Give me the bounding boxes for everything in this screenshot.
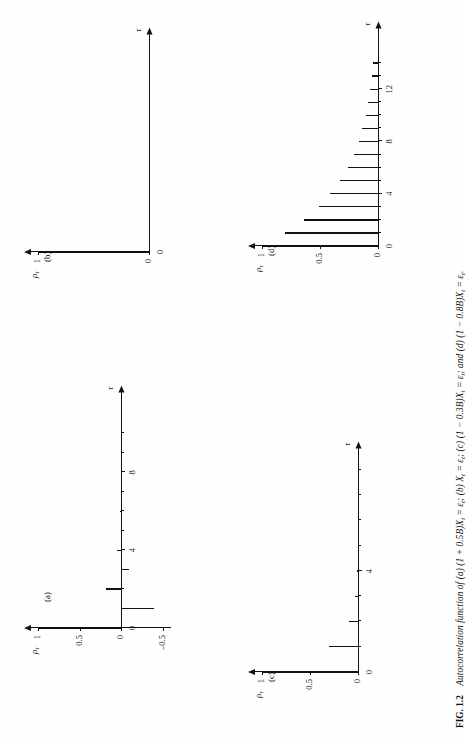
acf-spike xyxy=(355,596,358,597)
panel-label-a: (a) xyxy=(42,592,52,602)
x-tick-label: 4 xyxy=(364,566,374,576)
acf-spike xyxy=(348,167,378,168)
x-tick-label: 12 xyxy=(384,84,394,94)
x-tick xyxy=(121,510,124,511)
x-tick xyxy=(378,193,382,194)
x-tick xyxy=(378,167,381,168)
x-tick xyxy=(378,88,382,89)
panel-d: τρτ10.5004812 (d) xyxy=(252,24,402,286)
y-tick-label: 0.5 xyxy=(74,635,84,668)
x-tick-label: 8 xyxy=(127,467,137,477)
tau-axis-label: τ xyxy=(362,23,372,26)
acf-spike xyxy=(372,76,378,77)
acf-spike xyxy=(362,128,378,129)
acf-spike xyxy=(38,627,121,628)
y-tick-label: 0 xyxy=(372,253,382,286)
acf-spike xyxy=(329,646,358,647)
y-tick xyxy=(358,671,359,675)
tau-axis-arrowhead xyxy=(118,386,124,393)
x-tick xyxy=(358,595,361,596)
x-tick xyxy=(378,219,381,220)
acf-spike xyxy=(370,89,378,90)
x-tick xyxy=(378,206,381,207)
plot-area-a: τρτ10.50–0.5048 xyxy=(28,388,233,668)
acf-spike xyxy=(121,569,128,570)
acf-spike xyxy=(319,206,378,207)
x-tick-label: 0 xyxy=(384,241,394,251)
x-tick xyxy=(121,432,124,433)
x-tick xyxy=(121,452,124,453)
figure-caption: FIG. 1.2 Autocorrelation function of (a)… xyxy=(455,270,466,728)
x-tick xyxy=(121,471,125,472)
x-tick xyxy=(358,570,362,571)
x-tick-label: 0 xyxy=(364,667,374,677)
tau-axis-line xyxy=(121,390,122,628)
y-tick-label: 1 xyxy=(256,253,266,286)
x-tick xyxy=(378,180,381,181)
x-tick-label: 4 xyxy=(384,189,394,199)
x-tick xyxy=(358,646,361,647)
panel-label-c: (c) xyxy=(266,672,276,682)
acf-spike xyxy=(262,671,358,672)
rho-axis-arrowhead xyxy=(24,625,31,631)
rho-axis-arrowhead xyxy=(24,249,31,255)
x-tick xyxy=(358,621,361,622)
y-tick xyxy=(163,627,164,631)
acf-spike xyxy=(120,511,121,512)
y-tick-label: 1 xyxy=(32,259,42,292)
x-tick xyxy=(378,101,381,102)
y-tick-label: 0 xyxy=(352,679,362,712)
y-tick-label: 0.5 xyxy=(314,253,324,286)
rho-axis-arrowhead xyxy=(248,669,255,675)
tau-axis-line xyxy=(149,32,150,252)
y-tick-label: –0.5 xyxy=(157,635,167,668)
x-tick xyxy=(378,154,381,155)
acf-spike xyxy=(357,570,358,571)
y-tick xyxy=(378,245,379,249)
panel-label-b: (b) xyxy=(42,252,52,263)
acf-spike xyxy=(366,115,378,116)
panel-c: τρτ10.5004 (c) xyxy=(252,444,382,712)
acf-spike xyxy=(262,245,378,246)
x-tick xyxy=(121,491,124,492)
x-tick xyxy=(121,588,124,589)
x-tick-label: 0 xyxy=(127,623,137,633)
tau-axis-line xyxy=(378,26,379,246)
x-tick xyxy=(378,62,381,63)
y-tick-label: 1 xyxy=(32,635,42,668)
x-tick-label: 8 xyxy=(384,136,394,146)
x-tick-label: 0 xyxy=(155,247,165,257)
x-tick xyxy=(358,520,361,521)
acf-spike xyxy=(373,62,378,63)
acf-spike xyxy=(354,154,378,155)
tau-axis-arrowhead xyxy=(375,22,381,29)
acf-spike xyxy=(330,193,378,194)
tau-axis-label: τ xyxy=(342,443,352,446)
panel-label-d: (d) xyxy=(266,246,276,257)
tau-axis-arrowhead xyxy=(355,442,361,449)
panel-b: τρτ100 (b) xyxy=(28,30,173,292)
figure-number: FIG. 1.2 xyxy=(455,695,465,728)
acf-spike xyxy=(121,530,123,531)
acf-spike xyxy=(106,588,121,589)
x-tick xyxy=(358,494,361,495)
acf-spike xyxy=(340,180,378,181)
panel-a: τρτ10.50–0.5048 (a) xyxy=(28,388,233,668)
x-tick xyxy=(378,127,381,128)
y-tick xyxy=(121,627,122,631)
acf-spike xyxy=(368,102,378,103)
y-tick xyxy=(149,251,150,255)
acf-spike xyxy=(304,219,378,220)
x-tick xyxy=(378,140,382,141)
x-tick xyxy=(378,114,381,115)
acf-spike xyxy=(38,251,149,252)
tau-axis-line xyxy=(358,446,359,672)
acf-spike xyxy=(117,550,121,551)
x-tick xyxy=(378,75,381,76)
y-tick-label: 0 xyxy=(143,259,153,292)
x-tick xyxy=(121,549,125,550)
tau-axis-label: τ xyxy=(133,29,143,32)
y-tick-label: 1 xyxy=(256,679,266,712)
x-tick-label: 4 xyxy=(127,545,137,555)
